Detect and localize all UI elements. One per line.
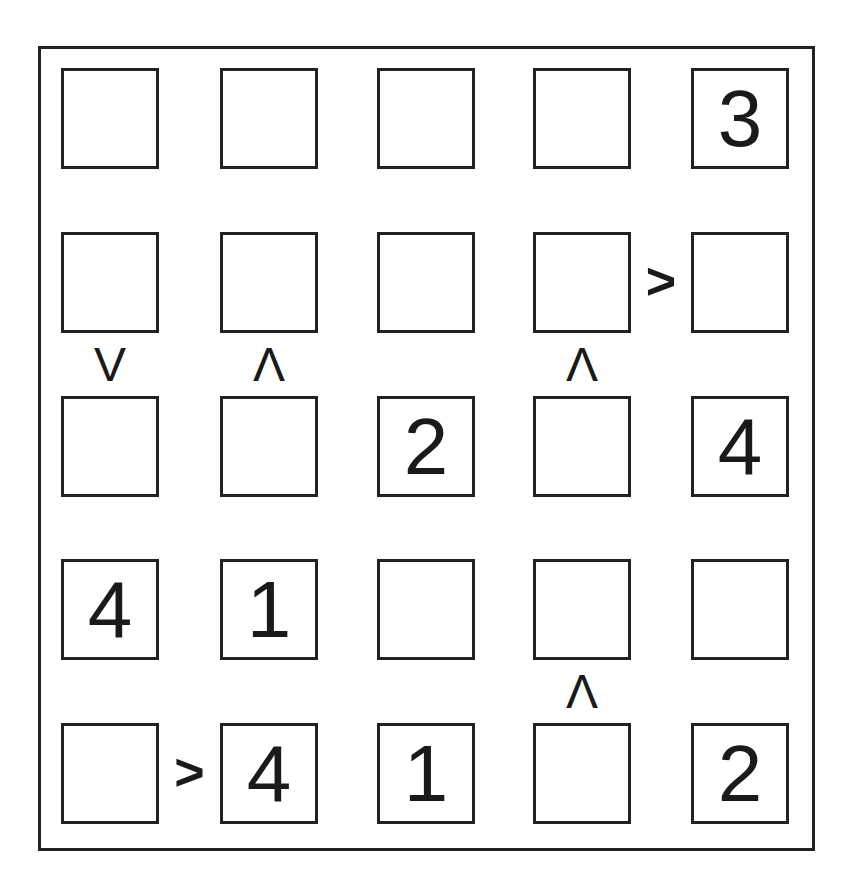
greater-than-sign: > bbox=[641, 261, 681, 301]
cell-r5-c1[interactable] bbox=[61, 723, 159, 824]
cell-r3-c3[interactable]: 2 bbox=[377, 396, 475, 497]
greater-than-sign: > bbox=[170, 752, 210, 792]
cell-r2-c5[interactable] bbox=[691, 232, 789, 333]
cell-r3-c4[interactable] bbox=[533, 396, 631, 497]
greater-than-down-sign: V bbox=[90, 345, 130, 385]
less-than-down-sign: Λ bbox=[562, 672, 602, 712]
cell-r3-c5[interactable]: 4 bbox=[691, 396, 789, 497]
cell-r4-c4[interactable] bbox=[533, 559, 631, 660]
cell-r3-c1[interactable] bbox=[61, 396, 159, 497]
cell-r5-c4[interactable] bbox=[533, 723, 631, 824]
cell-r4-c1[interactable]: 4 bbox=[61, 559, 159, 660]
cell-r2-c3[interactable] bbox=[377, 232, 475, 333]
cell-r5-c2[interactable]: 4 bbox=[220, 723, 318, 824]
cell-r4-c3[interactable] bbox=[377, 559, 475, 660]
cell-r1-c2[interactable] bbox=[220, 68, 318, 169]
cell-r2-c1[interactable] bbox=[61, 232, 159, 333]
cell-r4-c2[interactable]: 1 bbox=[220, 559, 318, 660]
cell-r4-c5[interactable] bbox=[691, 559, 789, 660]
cell-r5-c3[interactable]: 1 bbox=[377, 723, 475, 824]
less-than-down-sign: Λ bbox=[562, 345, 602, 385]
puzzle-board: 32441412>VΛΛΛ> bbox=[38, 46, 815, 851]
cell-r5-c5[interactable]: 2 bbox=[691, 723, 789, 824]
cell-r3-c2[interactable] bbox=[220, 396, 318, 497]
cell-r1-c4[interactable] bbox=[533, 68, 631, 169]
cell-r1-c1[interactable] bbox=[61, 68, 159, 169]
cell-r1-c5[interactable]: 3 bbox=[691, 68, 789, 169]
less-than-down-sign: Λ bbox=[249, 345, 289, 385]
cell-r1-c3[interactable] bbox=[377, 68, 475, 169]
cell-r2-c2[interactable] bbox=[220, 232, 318, 333]
cell-r2-c4[interactable] bbox=[533, 232, 631, 333]
